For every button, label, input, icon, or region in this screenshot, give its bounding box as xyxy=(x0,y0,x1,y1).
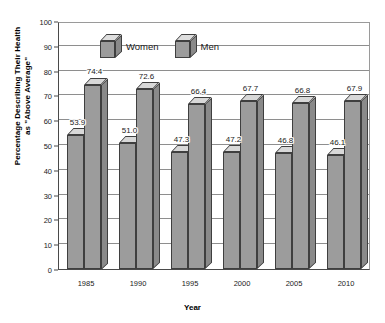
bar-women-1990 xyxy=(119,143,136,269)
bar-side-face xyxy=(101,78,108,269)
legend-label: Women xyxy=(126,41,159,52)
legend-label: Men xyxy=(201,41,219,52)
y-tick-label: 50 xyxy=(26,142,52,151)
bar-women-2000 xyxy=(223,152,240,269)
cube-front-face xyxy=(175,41,190,58)
bar-men-2005 xyxy=(292,103,309,269)
bar-men-1990 xyxy=(136,89,153,269)
y-tick-label: 30 xyxy=(26,191,52,200)
bar-value-label: 46.8 xyxy=(278,136,294,145)
y-tick-label: 60 xyxy=(26,117,52,126)
bar-value-label: 47.3 xyxy=(174,135,190,144)
bar-men-2010 xyxy=(344,101,361,269)
y-tick-label: 90 xyxy=(26,42,52,51)
bar-front-face xyxy=(275,153,292,269)
y-tick-label: 80 xyxy=(26,67,52,76)
bar-side-face xyxy=(153,82,160,269)
bar-women-2005 xyxy=(275,153,292,269)
x-tick-label: 1985 xyxy=(78,279,95,288)
y-tick-label: 0 xyxy=(26,266,52,275)
y-tick-label: 10 xyxy=(26,241,52,250)
y-tick-label: 100 xyxy=(26,18,52,27)
legend: WomenMen xyxy=(100,34,219,58)
legend-item-men: Men xyxy=(175,34,219,58)
bar-value-label: 53.9 xyxy=(70,118,86,127)
x-tick-label: 2010 xyxy=(338,279,355,288)
bar-men-2000 xyxy=(240,101,257,269)
bar-women-1995 xyxy=(171,152,188,269)
bar-front-face xyxy=(344,101,361,269)
bar-men-1995 xyxy=(188,104,205,269)
x-tick-label: 2005 xyxy=(286,279,303,288)
bar-value-label: 72.6 xyxy=(139,72,155,81)
bar-value-label: 67.7 xyxy=(243,84,259,93)
y-tick-label: 20 xyxy=(26,216,52,225)
bar-value-label: 67.9 xyxy=(347,84,363,93)
bar-women-1985 xyxy=(67,135,84,269)
bar-side-face xyxy=(309,97,316,269)
bar-value-label: 74.4 xyxy=(87,67,103,76)
bar-front-face xyxy=(67,135,84,269)
cube-icon xyxy=(175,34,195,58)
bar-front-face xyxy=(188,104,205,269)
bar-front-face xyxy=(292,103,309,269)
y-axis-title-line1: Percentage Describing Their Health xyxy=(13,27,23,166)
bar-value-label: 46.1 xyxy=(330,138,346,147)
bar-front-face xyxy=(240,101,257,269)
bar-chart: Percentage Describing Their Health as "A… xyxy=(0,0,385,323)
x-tick-label: 1990 xyxy=(130,279,147,288)
legend-item-women: Women xyxy=(100,34,159,58)
bar-front-face xyxy=(327,155,344,269)
bar-side-face xyxy=(205,98,212,269)
cube-front-face xyxy=(100,41,115,58)
cube-icon xyxy=(100,34,120,58)
x-tick-label: 1995 xyxy=(182,279,199,288)
bar-value-label: 66.8 xyxy=(295,86,311,95)
bar-side-face xyxy=(361,94,368,269)
bar-front-face xyxy=(171,152,188,269)
bar-front-face xyxy=(84,85,101,270)
bar-men-1985 xyxy=(84,85,101,270)
gridline xyxy=(59,70,369,71)
y-tick-label: 70 xyxy=(26,92,52,101)
bar-front-face xyxy=(119,143,136,269)
y-tick-label: 40 xyxy=(26,166,52,175)
x-tick-label: 2000 xyxy=(234,279,251,288)
x-axis-title: Year xyxy=(0,303,385,312)
bar-value-label: 66.4 xyxy=(191,87,207,96)
bar-side-face xyxy=(257,95,264,269)
plot-area xyxy=(58,22,370,270)
bar-women-2010 xyxy=(327,155,344,269)
bar-front-face xyxy=(136,89,153,269)
bar-value-label: 47.2 xyxy=(226,135,242,144)
bar-value-label: 51.0 xyxy=(122,126,138,135)
bar-front-face xyxy=(223,152,240,269)
